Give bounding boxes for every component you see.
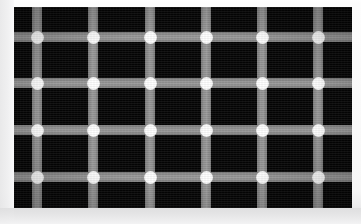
grid-dot (312, 124, 325, 137)
grid-dot (256, 124, 269, 137)
grid-dot (144, 124, 157, 137)
grid-dot (31, 171, 44, 184)
grid-line-horizontal-1 (14, 78, 352, 88)
bottom-margin-strip (0, 208, 361, 224)
grid-dot (200, 171, 213, 184)
grid-dot (87, 124, 100, 137)
grid-dot (312, 31, 325, 44)
scintillating-grid-figure (14, 7, 352, 208)
grid-dot (312, 77, 325, 90)
grid-dot (312, 171, 325, 184)
grid-dot (144, 171, 157, 184)
grid-dot (144, 31, 157, 44)
grid-dot (256, 77, 269, 90)
grid-dot (87, 31, 100, 44)
grid-dot (87, 171, 100, 184)
grid-line-horizontal-0 (14, 32, 352, 42)
grid-dot (200, 77, 213, 90)
screenshot-canvas (0, 0, 361, 224)
left-margin-strip (0, 0, 14, 224)
grid-line-horizontal-2 (14, 125, 352, 135)
grid-dot (31, 124, 44, 137)
grid-dot (87, 77, 100, 90)
grid-dot (31, 31, 44, 44)
grid-dot (31, 77, 44, 90)
grid-dot (200, 124, 213, 137)
grid-dot (200, 31, 213, 44)
grid-line-horizontal-3 (14, 172, 352, 182)
grid-dot (256, 171, 269, 184)
grid-dot (144, 77, 157, 90)
grid-dot (256, 31, 269, 44)
